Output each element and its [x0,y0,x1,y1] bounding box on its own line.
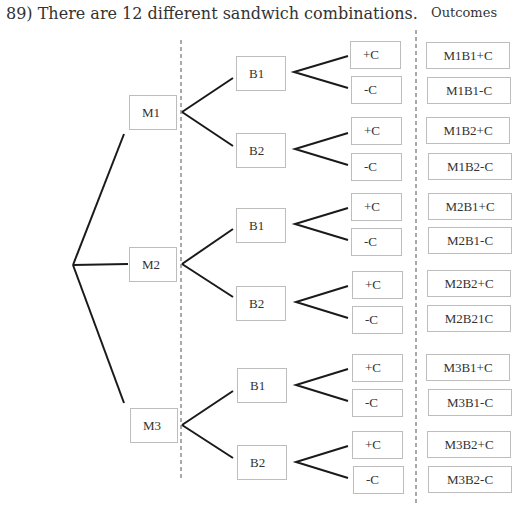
bread-node-m2-b1: B1 [236,208,286,243]
cheese-node: -C [353,466,404,494]
cheese-node: +C [350,41,401,69]
outcome-box: M2B1-C [428,227,512,254]
outcome-box: M1B2-C [428,153,512,180]
bread-node-m3-b2: B2 [237,445,287,480]
outcome-box: M2B1+C [428,193,512,220]
cheese-node: -C [351,153,402,181]
meat-node-m2: M2 [129,247,177,282]
outcome-box: M3B2-C [428,466,512,493]
bread-node-m3-b1: B1 [237,368,287,403]
cheese-node: -C [351,76,402,104]
outcome-box: M3B1+C [426,354,510,381]
bread-node-m1-b1: B1 [236,56,286,91]
cheese-node: +C [352,431,403,459]
outcome-box: M2B2+C [427,270,511,297]
outcome-box: M1B1+C [426,42,510,69]
bread-node-m1-b2: B2 [236,133,286,168]
outcome-box: M1B2+C [426,117,510,144]
cheese-node: -C [352,306,403,334]
outcome-box: M3B1-C [428,389,512,416]
outcome-box: M1B1-C [427,77,511,104]
bread-node-m2-b2: B2 [236,286,286,321]
cheese-node: +C [351,117,402,145]
cheese-node: +C [352,271,403,299]
cheese-node: -C [351,228,402,256]
outcome-box: M2B21C [427,305,511,332]
cheese-node: -C [352,389,403,417]
meat-node-m3: M3 [130,408,178,443]
cheese-node: +C [351,193,402,221]
meat-node-m1: M1 [129,95,177,130]
outcome-box: M3B2+C [427,431,511,458]
cheese-node: +C [352,354,403,382]
